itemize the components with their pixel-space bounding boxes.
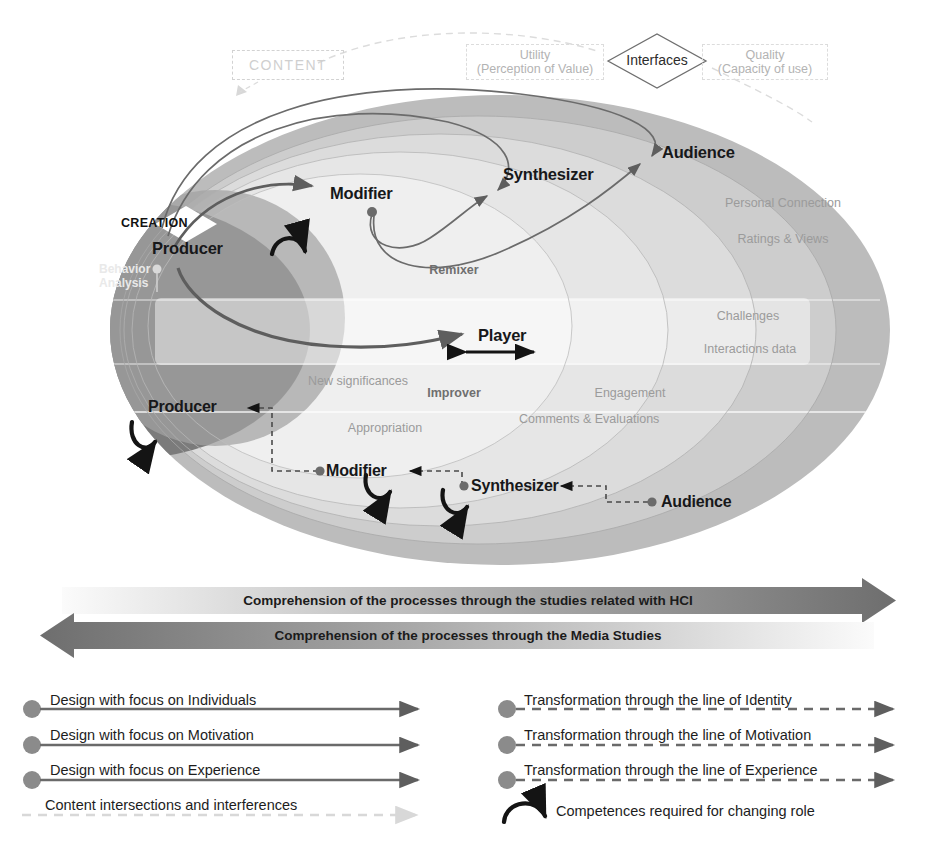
legend-label-motivation-right: Transformation through the line of Motiv…	[524, 727, 811, 743]
legend-label-content-intersections: Content intersections and interferences	[45, 797, 297, 813]
ring-label-new-significances: New significances	[308, 374, 404, 389]
role-audience-top: Audience	[662, 143, 735, 162]
diagram-canvas: CONTENT Utility (Perception of Value) In…	[0, 0, 936, 857]
content-box-label: CONTENT	[249, 57, 327, 73]
legend-label-identity: Transformation through the line of Ident…	[524, 692, 792, 708]
role-producer-top: Producer	[152, 239, 223, 258]
legend-label-experience-right: Transformation through the line of Exper…	[524, 762, 818, 778]
legend-dot-identity	[498, 700, 516, 718]
legend-dot-motivation	[23, 736, 41, 754]
quality-line1: Quality	[709, 48, 821, 62]
role-synthesizer-bottom: Synthesizer	[471, 477, 559, 495]
ring-label-improver: Improver	[412, 386, 496, 400]
ring-label-comments-evaluations: Comments & Evaluations	[519, 412, 615, 427]
role-modifier-top: Modifier	[330, 184, 393, 203]
interfaces-label: Interfaces	[613, 52, 701, 68]
legend-label-motivation: Design with focus on Motivation	[50, 727, 254, 743]
creation-badge: CREATION	[121, 216, 188, 230]
content-box: CONTENT	[232, 50, 344, 80]
utility-box: Utility (Perception of Value)	[466, 44, 604, 80]
legend-label-competences: Competences required for changing role	[556, 803, 815, 819]
legend-label-experience: Design with focus on Experience	[50, 762, 260, 778]
ring-label-engagement: Engagement	[574, 386, 686, 400]
role-modifier-bottom: Modifier	[326, 462, 387, 480]
legend-dot-experience	[23, 771, 41, 789]
behavior-analysis-line1: Behavior	[99, 262, 150, 276]
legend-label-individuals: Design with focus on Individuals	[50, 692, 256, 708]
legend-dot-experience-right	[498, 771, 516, 789]
role-player: Player	[478, 326, 526, 345]
role-producer-bottom: Producer	[148, 398, 217, 416]
quality-box: Quality (Capacity of use)	[702, 44, 828, 80]
band-label-hci: Comprehension of the processes through t…	[0, 593, 936, 608]
modifier-bottom-node	[315, 466, 324, 475]
behavior-analysis-label: Behavior Analysis	[99, 262, 150, 290]
ring-label-interactions-data: Interactions data	[684, 342, 816, 356]
ring-label-appropriation: Appropriation	[330, 421, 440, 435]
legend-dot-motivation-right	[498, 736, 516, 754]
ring-label-challenges: Challenges	[700, 309, 796, 323]
ring-label-ratings-views: Ratings & Views	[716, 232, 850, 246]
band-label-media: Comprehension of the processes through t…	[0, 628, 936, 643]
utility-line2: (Perception of Value)	[473, 62, 597, 76]
synthesizer-bottom-node	[459, 481, 468, 490]
ring-label-personal-connection: Personal Connection	[703, 196, 863, 210]
behavior-analysis-line2: Analysis	[99, 276, 150, 290]
utility-line1: Utility	[473, 48, 597, 62]
role-audience-bottom: Audience	[661, 493, 731, 511]
behavior-analysis-node	[153, 265, 162, 274]
ring-label-remixer: Remixer	[414, 263, 494, 277]
role-synthesizer-top: Synthesizer	[503, 165, 593, 184]
legend-competence-arc	[504, 803, 545, 822]
quality-line2: (Capacity of use)	[709, 62, 821, 76]
legend-dot-individuals	[23, 700, 41, 718]
audience-bottom-node	[647, 497, 656, 506]
